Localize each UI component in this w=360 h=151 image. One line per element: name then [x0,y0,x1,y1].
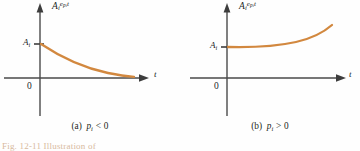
x-axis-label-b: t [349,70,352,79]
y-axis-b [224,3,231,116]
caption-a: (a) pi < 0 [0,122,180,132]
y-axis-a [37,3,44,116]
plot-a-svg [0,0,180,140]
figure-caption-cropped: Fig. 12-11 Illustration of [2,142,242,151]
tick-label-ai-b: Ai [210,41,217,51]
y-axis-label-a: Aiepit [52,1,69,12]
x-axis-label-a: t [154,70,157,79]
panel-b: Aiepit Ai 0 t (b) pi > 0 [180,0,360,140]
curve-exponential-decay [41,44,134,77]
plot-b-svg [180,0,360,140]
origin-label-b: 0 [214,82,219,92]
y-axis-label-b: Aiepit [239,1,256,12]
caption-b: (b) pi > 0 [180,122,360,132]
panel-a: Aiepit Ai 0 t (a) pi < 0 [0,0,180,140]
tick-label-ai-a: Ai [23,38,30,48]
origin-label-a: 0 [27,82,32,92]
figure-container: Aiepit Ai 0 t (a) pi < 0 Aiepit Ai 0 t (… [0,0,360,151]
curve-exponential-growth [228,25,332,47]
